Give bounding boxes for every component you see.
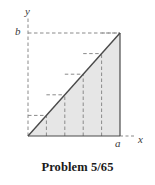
x-axis-label: x xyxy=(138,134,143,145)
figure-container: y b a x Problem 5/65 xyxy=(0,0,155,185)
triangle-riemann-figure xyxy=(0,0,155,155)
a-value-label: a xyxy=(115,138,121,149)
b-value-label: b xyxy=(15,26,21,37)
y-axis-label: y xyxy=(25,6,30,17)
figure-caption: Problem 5/65 xyxy=(0,160,155,175)
